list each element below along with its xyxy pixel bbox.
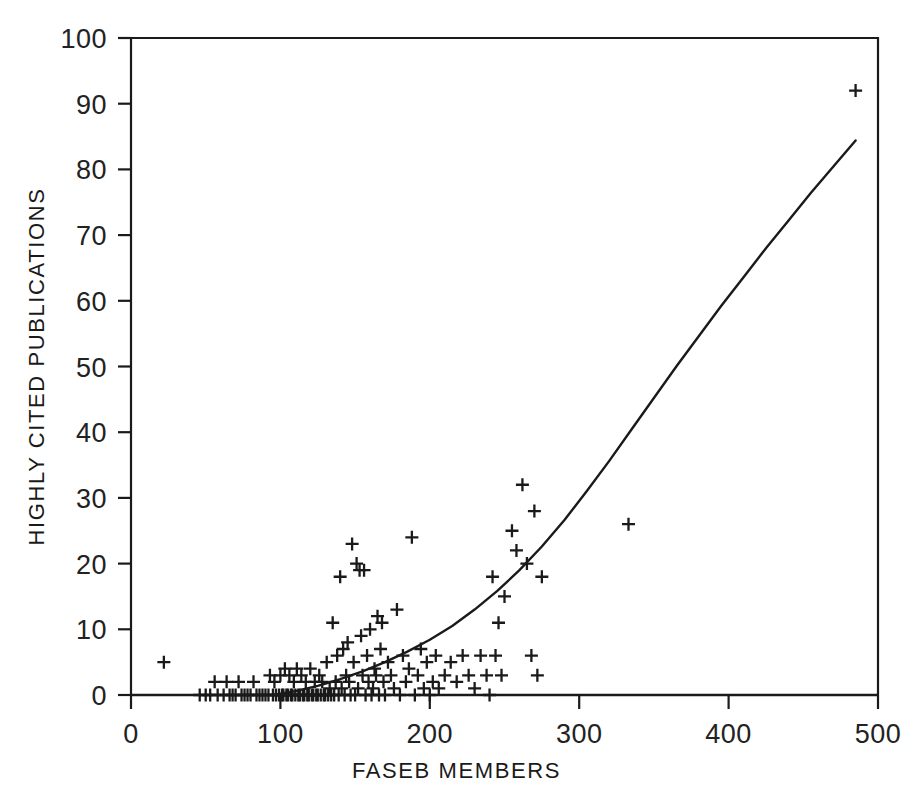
y-tick-label: 80 — [76, 155, 107, 185]
y-tick-label: 90 — [76, 90, 107, 120]
y-tick-label: 60 — [76, 287, 107, 317]
y-tick-label: 30 — [76, 484, 107, 514]
y-tick-label: 20 — [76, 550, 107, 580]
y-axis-title: HIGHLY CITED PUBLICATIONS — [24, 188, 49, 546]
x-tick-label: 100 — [257, 719, 304, 749]
plot-background — [0, 0, 919, 786]
x-tick-label: 500 — [855, 719, 902, 749]
y-tick-label: 0 — [91, 681, 107, 711]
x-tick-label: 0 — [123, 719, 139, 749]
chart-figure: 0102030405060708090100 0100200300400500 … — [0, 0, 919, 786]
y-tick-label: 10 — [76, 615, 107, 645]
y-tick-label: 70 — [76, 221, 107, 251]
y-tick-label: 50 — [76, 353, 107, 383]
x-tick-label: 300 — [556, 719, 603, 749]
x-axis-title: FASEB MEMBERS — [352, 758, 561, 783]
x-tick-label: 400 — [705, 719, 752, 749]
y-tick-label: 40 — [76, 418, 107, 448]
x-tick-label: 200 — [407, 719, 454, 749]
y-tick-label: 100 — [60, 24, 107, 54]
scatter-plot-svg: 0102030405060708090100 0100200300400500 … — [0, 0, 919, 786]
